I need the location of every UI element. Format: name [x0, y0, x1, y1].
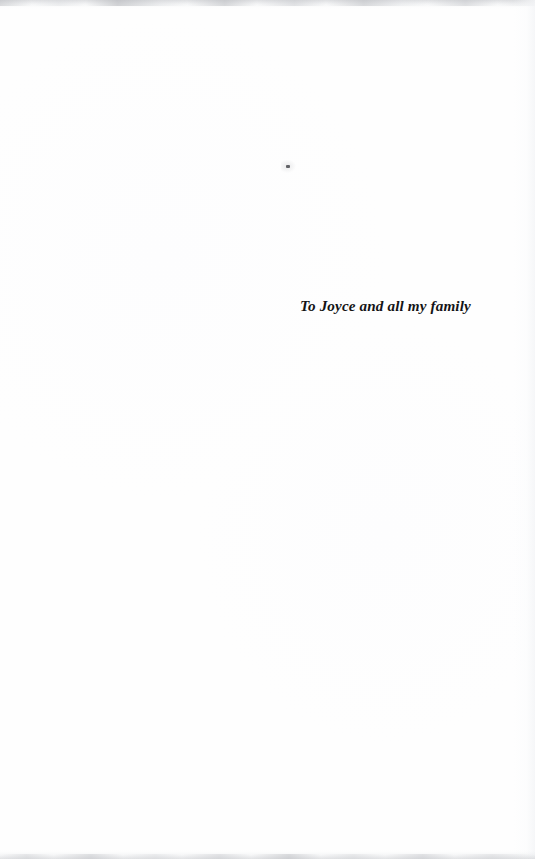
dust-speck-halo: [281, 160, 296, 173]
scan-edge-artifact-bottom: [0, 849, 535, 859]
scan-edge-artifact-top: [0, 0, 535, 9]
scan-edge-speckle-top: [0, 0, 535, 6]
scan-edge-speckle-bottom: [0, 854, 535, 859]
dedication-page: To Joyce and all my family: [0, 0, 535, 859]
paper-surface: [0, 0, 535, 859]
dedication-text: To Joyce and all my family: [300, 297, 471, 315]
dust-speck-icon: [286, 165, 290, 168]
scan-edge-artifact-right: [513, 0, 535, 859]
